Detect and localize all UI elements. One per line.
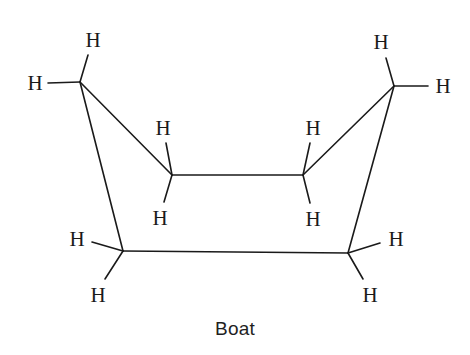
hydrogen-atom-label: H [85,30,100,51]
carbon-hydrogen-bond [164,175,172,202]
hydrogen-atom-label: H [27,73,42,94]
carbon-hydrogen-bond [92,242,123,251]
hydrogen-atom-label: H [305,118,320,139]
hydrogen-atom-label: H [362,285,377,306]
carbon-hydrogen-bond [303,175,310,203]
hydrogen-atom-label: H [388,229,403,250]
hydrogen-atom-label: H [373,32,388,53]
carbon-carbon-bond [348,86,394,253]
boat-conformation-figure: HHHHHHHHHHHH Boat [0,0,470,355]
hydrogen-atom-label: H [435,76,450,97]
figure-caption: Boat [0,318,470,340]
carbon-hydrogen-bond [105,251,123,279]
hydrogen-atom-label: H [305,209,320,230]
ring-bond-group [80,82,394,253]
carbon-hydrogen-bond [48,82,80,83]
hydrogen-atom-label: H [152,208,167,229]
hydrogen-atom-label: H [155,118,170,139]
molecular-structure-svg [0,0,470,355]
hydrogen-atom-label: H [69,229,84,250]
carbon-hydrogen-bond [348,243,380,253]
carbon-hydrogen-bond [348,253,363,279]
hydrogen-atom-label: H [90,285,105,306]
carbon-carbon-bond [123,251,348,253]
carbon-hydrogen-bond [80,55,88,82]
carbon-hydrogen-bond [386,58,394,86]
carbon-carbon-bond [80,82,123,251]
